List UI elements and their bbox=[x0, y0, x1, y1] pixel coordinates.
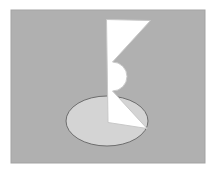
figure-root: Geometric shapes illustration A flat gra… bbox=[0, 0, 216, 171]
diagram-canvas: Geometric shapes illustration A flat gra… bbox=[0, 0, 216, 171]
